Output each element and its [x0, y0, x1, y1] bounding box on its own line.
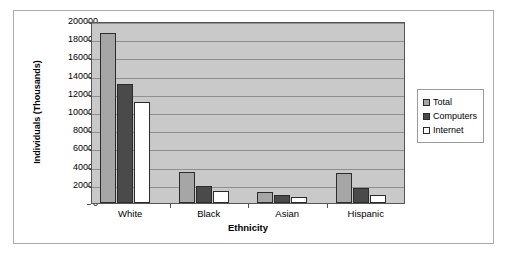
- bar-asian-total: [257, 192, 273, 203]
- x-axis-tick-mark: [170, 204, 171, 208]
- plot-area: [91, 22, 405, 204]
- bar-black-total: [179, 172, 195, 203]
- bar-white-computers: [117, 84, 133, 203]
- legend-item-total[interactable]: Total: [423, 95, 477, 109]
- chart-legend: Total Computers Internet: [417, 89, 484, 143]
- legend-label-computers: Computers: [433, 111, 477, 121]
- x-axis-tick-label-hispanic: Hispanic: [321, 208, 411, 219]
- legend-swatch-internet-icon: [423, 127, 430, 134]
- x-axis-tick-mark: [248, 204, 249, 208]
- chart-figure: Individuals (Thousands) 0200004000060000…: [13, 10, 494, 244]
- legend-item-computers[interactable]: Computers: [423, 109, 477, 123]
- gridline: [92, 96, 404, 97]
- x-axis-tick-label-white: White: [85, 208, 175, 219]
- gridline: [92, 23, 404, 24]
- bar-black-computers: [196, 186, 212, 203]
- legend-item-internet[interactable]: Internet: [423, 123, 477, 137]
- bar-hispanic-total: [336, 173, 352, 203]
- legend-swatch-computers-icon: [423, 113, 430, 120]
- bar-asian-internet: [291, 197, 307, 203]
- bar-white-internet: [134, 102, 150, 203]
- bar-asian-computers: [274, 195, 290, 203]
- y-axis-tick-mark: [87, 204, 91, 205]
- x-axis-tick-label-asian: Asian: [242, 208, 332, 219]
- gridline: [92, 41, 404, 42]
- legend-label-total: Total: [433, 97, 452, 107]
- x-axis-tick-label-black: Black: [164, 208, 254, 219]
- bar-hispanic-internet: [370, 195, 386, 203]
- gridline: [92, 59, 404, 60]
- bar-white-total: [100, 33, 116, 203]
- bar-hispanic-computers: [353, 188, 369, 203]
- bar-black-internet: [213, 191, 229, 203]
- legend-label-internet: Internet: [433, 125, 464, 135]
- x-axis-tick-mark: [327, 204, 328, 208]
- x-axis-title: Ethnicity: [91, 222, 405, 233]
- legend-swatch-total-icon: [423, 99, 430, 106]
- gridline: [92, 78, 404, 79]
